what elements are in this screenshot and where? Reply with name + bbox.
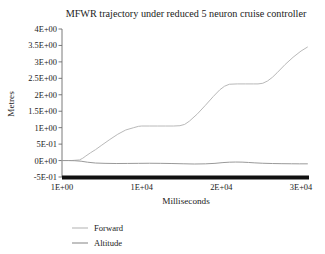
x-tick-label-2: 2E+04	[210, 183, 233, 192]
y-tick-label-4: 2E+00	[35, 91, 57, 100]
chart-container: MFWR trajectory under reduced 5 neuron c…	[0, 0, 325, 254]
chart-title: MFWR trajectory under reduced 5 neuron c…	[66, 8, 307, 19]
y-tick-label-9: -5E-01	[34, 173, 57, 182]
y-tick-label-2: 3E+00	[35, 58, 57, 67]
y-tick-label-3: 2.5E+00	[28, 74, 57, 83]
y-tick-label-8: 0E+00	[35, 157, 57, 166]
y-tick-label-5: 1.5E+00	[28, 107, 57, 116]
x-tick-label-3: 3E+04	[290, 183, 313, 192]
x-tick-label-1: 1E+04	[130, 183, 153, 192]
y-axis-title: Metres	[6, 91, 16, 117]
y-tick-label-0: 4E+00	[35, 25, 57, 34]
legend-label-altitude: Altitude	[94, 238, 122, 248]
x-tick-label-0: 1E+00	[51, 183, 73, 192]
y-tick-label-6: 1E+00	[35, 124, 57, 133]
y-tick-label-1: 3.5E+00	[28, 41, 57, 50]
y-tick-label-7: 5E-01	[37, 140, 57, 149]
trajectory-line-chart: MFWR trajectory under reduced 5 neuron c…	[0, 0, 325, 254]
legend-label-forward: Forward	[94, 223, 124, 233]
x-axis-title: Milliseconds	[162, 196, 210, 206]
